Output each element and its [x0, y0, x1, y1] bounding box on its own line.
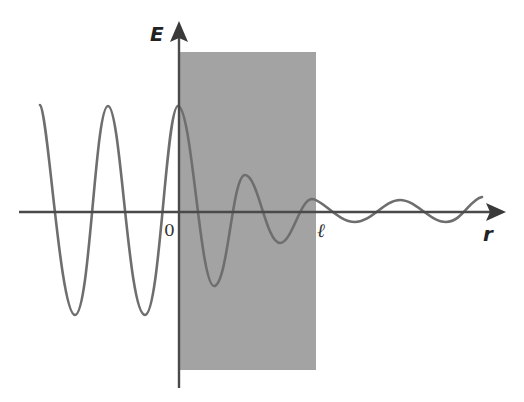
attenuation-diagram: E r 0 ℓ [0, 0, 524, 402]
boundary-label: ℓ [317, 219, 325, 241]
origin-label: 0 [164, 220, 175, 240]
wave-incident [40, 105, 178, 315]
wave-transmitted [312, 197, 482, 222]
e-axis-label: E [150, 22, 164, 46]
r-axis-label: r [483, 222, 494, 246]
